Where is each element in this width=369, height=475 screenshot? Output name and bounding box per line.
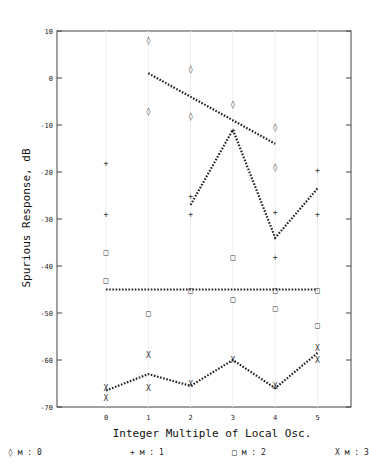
diamond-marker: ◊ — [273, 123, 278, 132]
square-marker: □ — [273, 286, 278, 295]
square-marker: □ — [315, 321, 320, 330]
square-marker: □ — [230, 253, 235, 262]
plus-marker: + — [315, 166, 320, 175]
diamond-marker: ◊ — [188, 112, 193, 121]
x-marker: X — [104, 394, 109, 403]
legend-item: X м : 3 — [335, 448, 369, 457]
plus-marker: + — [230, 126, 235, 135]
spurious-response-chart: 100-10-20-30-40-50-60-70 012345 ◊◊◊◊◊◊◊+… — [0, 0, 369, 475]
x-marker: X — [146, 351, 151, 360]
x-tick-label: 0 — [104, 414, 108, 422]
y-tick-label: 0 — [49, 75, 53, 83]
plot-frame — [57, 31, 351, 407]
y-tick-label: -20 — [40, 169, 53, 177]
square-marker: □ — [315, 286, 320, 295]
plus-marker: + — [273, 253, 278, 262]
plus-marker: + — [315, 210, 320, 219]
y-tick-label: -70 — [40, 404, 53, 412]
x-axis-title: Integer Multiple of Local Osc. — [113, 427, 312, 440]
x-marker: X — [315, 344, 320, 353]
fit-line-m=1 — [191, 130, 318, 238]
y-tick-label: -30 — [40, 216, 53, 224]
plus-marker: + — [188, 210, 193, 219]
legend-item: + м : 1 — [130, 448, 164, 457]
x-marker: X — [146, 384, 151, 393]
square-marker: □ — [230, 295, 235, 304]
x-tick-label: 1 — [146, 414, 150, 422]
square-marker: □ — [146, 309, 151, 318]
diamond-marker: ◊ — [273, 163, 278, 172]
y-axis-title: Spurious Response, dB — [20, 148, 33, 287]
data-points: ◊◊◊◊◊◊◊+++++++++□□□□□□□□□□XXXXXXXXX — [104, 36, 321, 402]
diamond-marker: ◊ — [146, 36, 151, 45]
square-marker: □ — [104, 248, 109, 257]
x-marker: X — [230, 356, 235, 365]
y-tick-label: -60 — [40, 357, 53, 365]
legend-item: ◊ м : 0 — [8, 448, 42, 457]
plus-marker: + — [104, 159, 109, 168]
y-tick-label: -10 — [40, 122, 53, 130]
plus-marker: + — [273, 208, 278, 217]
x-tick-label: 2 — [188, 414, 192, 422]
x-axis: 012345 — [104, 414, 320, 422]
diamond-marker: ◊ — [188, 65, 193, 74]
x-marker: X — [273, 382, 278, 391]
square-marker: □ — [104, 276, 109, 285]
legend: ◊ м : 0+ м : 1□ м : 2X м : 3 — [8, 448, 369, 457]
x-tick-label: 3 — [231, 414, 235, 422]
legend-item: □ м : 2 — [232, 448, 266, 457]
y-tick-label: 10 — [45, 28, 53, 36]
y-tick-label: -40 — [40, 263, 53, 271]
y-axis: 100-10-20-30-40-50-60-70 — [40, 28, 351, 412]
x-tick-label: 5 — [315, 414, 319, 422]
x-marker: X — [188, 380, 193, 389]
fit-line-m=0 — [148, 73, 275, 144]
square-marker: □ — [273, 304, 278, 313]
diamond-marker: ◊ — [230, 100, 235, 109]
fit-line-m=3 — [106, 353, 318, 391]
x-marker: X — [104, 384, 109, 393]
plus-marker: + — [188, 192, 193, 201]
x-marker: X — [315, 356, 320, 365]
diamond-marker: ◊ — [146, 107, 151, 116]
fit-lines — [106, 73, 318, 390]
x-tick-label: 4 — [273, 414, 277, 422]
plus-marker: + — [104, 210, 109, 219]
square-marker: □ — [188, 286, 193, 295]
plot-border — [57, 31, 351, 407]
y-tick-label: -50 — [40, 310, 53, 318]
